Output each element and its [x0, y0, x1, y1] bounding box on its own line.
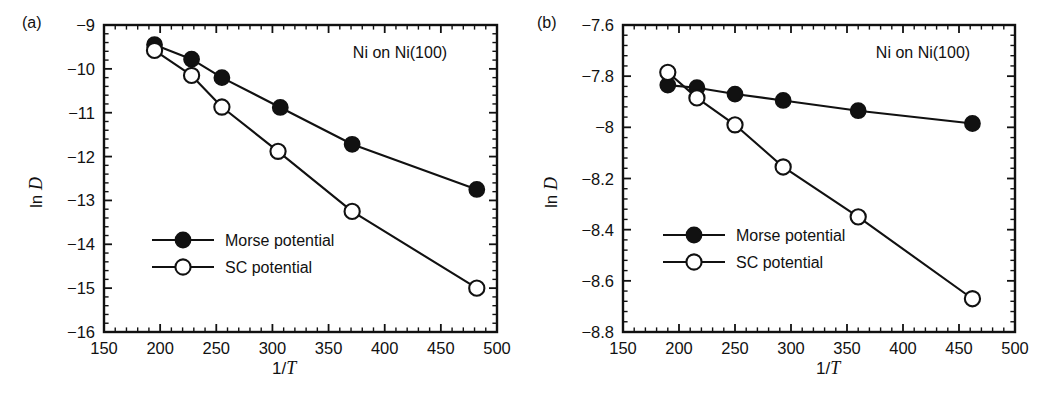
y-tick-label: −13 [67, 191, 95, 209]
y-tick-label: −16 [67, 323, 95, 341]
plot-annotation: Ni on Ni(100) [353, 44, 447, 61]
series-sc [147, 43, 484, 296]
panel-b: (b) ln D 1/T 150200250300350400450500−7.… [523, 0, 1047, 394]
x-tick-label: 150 [90, 339, 118, 357]
x-tick-label: 300 [777, 339, 805, 357]
legend-item-morse: Morse potential [152, 232, 334, 249]
legend-label: Morse potential [225, 232, 334, 249]
y-tick-label: −10 [67, 60, 95, 78]
filled-circle-icon [686, 227, 701, 242]
y-tick-label: −8.6 [581, 272, 614, 290]
legend-item-sc: SC potential [663, 254, 823, 271]
x-tick-label: 300 [259, 339, 287, 357]
y-tick-label: −8.8 [581, 323, 614, 341]
plot-annotation: Ni on Ni(100) [876, 44, 970, 61]
panel-b-plot: 150200250300350400450500−7.6−7.8−8−8.2−8… [523, 0, 1047, 394]
x-tick-label: 350 [833, 339, 861, 357]
legend-label: SC potential [736, 254, 823, 271]
y-tick-label: −11 [68, 104, 95, 122]
y-tick-label: −15 [67, 279, 95, 297]
y-tick-label: −7.6 [581, 16, 614, 34]
filled-circle-icon [175, 232, 190, 247]
x-tick-label: 250 [203, 339, 231, 357]
x-tick-label: 200 [146, 339, 174, 357]
open-circle-icon [686, 254, 701, 269]
x-tick-label: 400 [889, 339, 917, 357]
y-tick-label: −12 [67, 148, 95, 166]
x-tick-label: 450 [427, 339, 455, 357]
legend-label: Morse potential [736, 227, 845, 244]
y-tick-label: −14 [67, 235, 95, 253]
legend-item-morse: Morse potential [663, 227, 845, 244]
x-tick-label: 200 [665, 339, 693, 357]
legend: Morse potentialSC potential [663, 227, 845, 271]
y-tick-label: −9 [76, 16, 95, 34]
figure-container: (a) ln D 1/T 150200250300350400450500−9−… [0, 0, 1047, 394]
legend-item-sc: SC potential [152, 259, 312, 276]
panel-a-plot: 150200250300350400450500−9−10−11−12−13−1… [0, 0, 523, 394]
panel-a: (a) ln D 1/T 150200250300350400450500−9−… [0, 0, 523, 394]
y-tick-label: −8 [595, 118, 614, 136]
x-tick-label: 250 [721, 339, 749, 357]
x-tick-label: 500 [1001, 339, 1029, 357]
y-tick-label: −8.2 [581, 170, 614, 188]
y-tick-label: −8.4 [581, 221, 614, 239]
legend-label: SC potential [225, 259, 312, 276]
x-tick-label: 500 [483, 339, 511, 357]
x-tick-label: 450 [945, 339, 973, 357]
x-tick-label: 150 [609, 339, 637, 357]
series-morse [147, 37, 484, 197]
x-tick-label: 400 [371, 339, 399, 357]
x-tick-label: 350 [315, 339, 343, 357]
open-circle-icon [175, 259, 190, 274]
y-tick-label: −7.8 [581, 67, 614, 85]
legend: Morse potentialSC potential [152, 232, 334, 276]
series-morse [660, 78, 980, 132]
